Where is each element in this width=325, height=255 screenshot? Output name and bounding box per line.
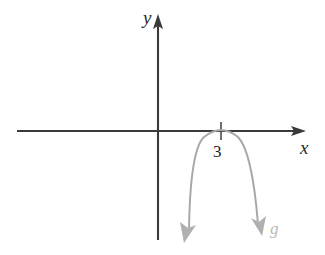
curve-name-label-g: g: [270, 220, 279, 237]
coordinate-plane-svg: [0, 0, 325, 255]
y-axis-label: y: [143, 8, 151, 27]
graph-figure: y x 3 g: [0, 0, 325, 255]
parabola-left-arrowhead: [180, 222, 196, 243]
parabola-curve-g: [189, 130, 258, 232]
x-intercept-tick-label: 3: [213, 143, 222, 160]
x-axis-label: x: [300, 138, 308, 157]
